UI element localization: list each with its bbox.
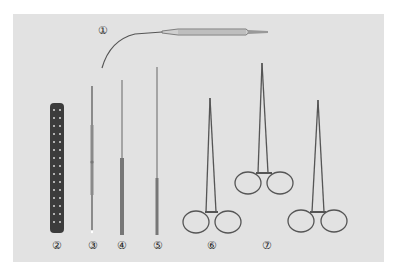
label-5: ⑤ <box>151 239 165 253</box>
instrument-7b <box>288 100 347 232</box>
instrument-3 <box>90 86 93 233</box>
label-4: ④ <box>115 239 129 253</box>
label-2: ② <box>50 239 64 253</box>
label-1: ① <box>96 24 110 38</box>
instruments-illustration <box>0 0 395 272</box>
instrument-5 <box>156 67 159 235</box>
label-7: ⑦ <box>260 239 274 253</box>
instrument-2 <box>50 103 64 233</box>
instrument-6 <box>183 98 241 233</box>
instrument-7a <box>235 63 293 194</box>
instrument-4 <box>120 80 124 235</box>
label-3: ③ <box>86 239 100 253</box>
label-6: ⑥ <box>205 239 219 253</box>
instrument-1 <box>102 29 268 68</box>
